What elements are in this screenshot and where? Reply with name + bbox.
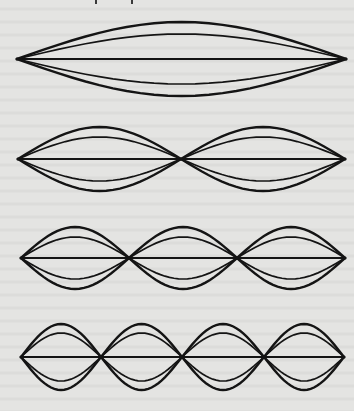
inner-envelope-bottom [21,258,129,279]
outer-envelope-bottom [21,258,129,289]
inner-envelope-bottom [18,159,181,181]
inner-envelope-top [21,237,129,258]
inner-envelope-top [237,237,345,258]
scanned-page [0,0,354,411]
inner-envelope-top [264,333,344,357]
node-point [127,256,130,259]
outer-envelope-bottom [182,357,264,390]
inner-envelope-top [129,237,237,258]
outer-envelope-bottom [181,159,345,191]
wave-modes [15,22,347,390]
inner-envelope-top [17,34,346,59]
outer-envelope-top [17,22,346,59]
inner-envelope-top [18,137,181,159]
node-point [342,355,345,358]
mode-harmonic-1 [15,22,347,96]
inner-envelope-top [182,333,264,357]
outer-envelope-top [182,324,264,357]
inner-envelope-bottom [264,357,344,381]
standing-wave-diagram [0,0,354,411]
outer-envelope-top [181,127,345,159]
inner-envelope-bottom [21,357,101,381]
inner-envelope-top [21,333,101,357]
outer-envelope-bottom [17,59,346,96]
inner-envelope-top [181,137,345,159]
outer-envelope-bottom [264,357,344,390]
outer-envelope-bottom [21,357,101,390]
node-point [179,157,182,160]
node-point [19,355,22,358]
outer-envelope-top [264,324,344,357]
outer-envelope-top [18,127,181,159]
inner-envelope-top [101,333,182,357]
outer-envelope-top [21,227,129,258]
node-point [344,57,347,60]
inner-envelope-bottom [181,159,345,181]
outer-envelope-top [21,324,101,357]
inner-envelope-bottom [129,258,237,279]
node-point [16,157,19,160]
outer-envelope-top [129,227,237,258]
node-point [180,355,183,358]
mode-harmonic-3 [19,227,346,289]
node-point [19,256,22,259]
outer-envelope-bottom [129,258,237,289]
node-point [343,256,346,259]
outer-envelope-bottom [237,258,345,289]
inner-envelope-bottom [17,59,346,84]
outer-envelope-top [237,227,345,258]
inner-envelope-bottom [237,258,345,279]
node-point [262,355,265,358]
outer-envelope-bottom [101,357,182,390]
inner-envelope-bottom [182,357,264,381]
node-point [15,57,18,60]
inner-envelope-bottom [101,357,182,381]
node-point [343,157,346,160]
outer-envelope-top [101,324,182,357]
mode-harmonic-2 [16,127,346,191]
node-point [99,355,102,358]
node-point [235,256,238,259]
mode-harmonic-4 [19,324,345,390]
outer-envelope-bottom [18,159,181,191]
